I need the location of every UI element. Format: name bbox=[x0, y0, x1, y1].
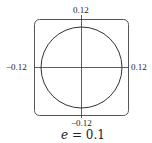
tick-label-left: −0.12 bbox=[6, 63, 27, 72]
caption: e = 0.1 bbox=[61, 129, 105, 141]
tick-label-top: 0.12 bbox=[73, 6, 89, 15]
tick-label-right: 0.12 bbox=[131, 63, 147, 72]
tick-label-bottom: −0.12 bbox=[71, 119, 92, 128]
caption-value: = 0.1 bbox=[68, 128, 105, 142]
